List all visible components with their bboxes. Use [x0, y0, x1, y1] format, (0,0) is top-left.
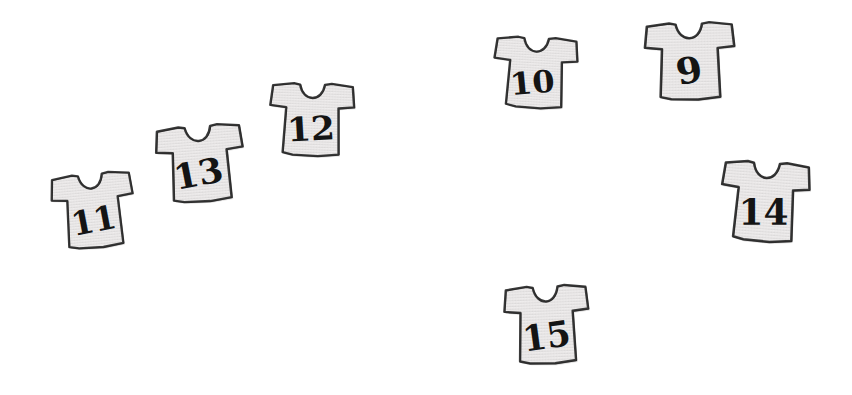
tshirt-glyph-9: 9: [639, 16, 740, 105]
tshirt-9: 9: [639, 16, 740, 105]
tshirt-number-label: 14: [738, 191, 788, 233]
tshirt-glyph-13: 13: [149, 117, 251, 209]
tshirt-15: 15: [498, 278, 594, 369]
tshirt-13: 13: [149, 117, 251, 209]
tshirt-glyph-15: 15: [498, 278, 594, 369]
shirt-scene: 1113121091415: [0, 0, 852, 395]
tshirt-number-label: 15: [520, 312, 573, 360]
tshirt-glyph-12: 12: [264, 76, 360, 161]
tshirt-11: 11: [45, 164, 142, 256]
tshirt-number-label: 10: [508, 63, 556, 101]
tshirt-glyph-14: 14: [713, 153, 816, 250]
tshirt-12: 12: [264, 76, 360, 161]
tshirt-14: 14: [713, 153, 816, 250]
tshirt-number-label: 12: [286, 108, 336, 149]
tshirt-glyph-10: 10: [487, 30, 583, 115]
tshirt-10: 10: [487, 30, 583, 115]
tshirt-glyph-11: 11: [45, 164, 142, 256]
